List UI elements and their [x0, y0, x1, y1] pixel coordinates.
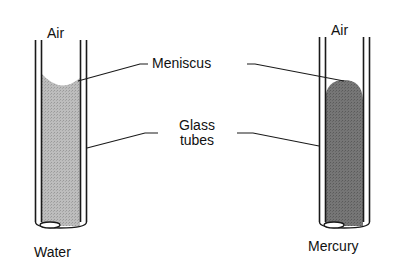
- glass-tubes-label: Glass tubes: [165, 118, 229, 148]
- mercury-tube: [320, 37, 370, 228]
- air-label-left: Air: [47, 26, 64, 41]
- glass-tubes-leader-left: [87, 133, 158, 148]
- water-tube-bottom-opening: [40, 222, 60, 228]
- water-tube: [36, 40, 87, 228]
- water-fill: [41, 73, 80, 226]
- meniscus-leader-right: [247, 64, 344, 81]
- glass-tubes-label-line2: tubes: [165, 133, 229, 148]
- mercury-fill: [325, 80, 363, 226]
- meniscus-label: Meniscus: [152, 56, 211, 71]
- meniscus-leader-left: [78, 64, 148, 81]
- mercury-tube-bottom-opening: [324, 222, 344, 228]
- air-label-right: Air: [331, 23, 348, 38]
- glass-tubes-label-line1: Glass: [165, 118, 229, 133]
- water-label: Water: [34, 245, 71, 260]
- mercury-label: Mercury: [308, 239, 359, 254]
- glass-tubes-leader-right: [237, 133, 319, 146]
